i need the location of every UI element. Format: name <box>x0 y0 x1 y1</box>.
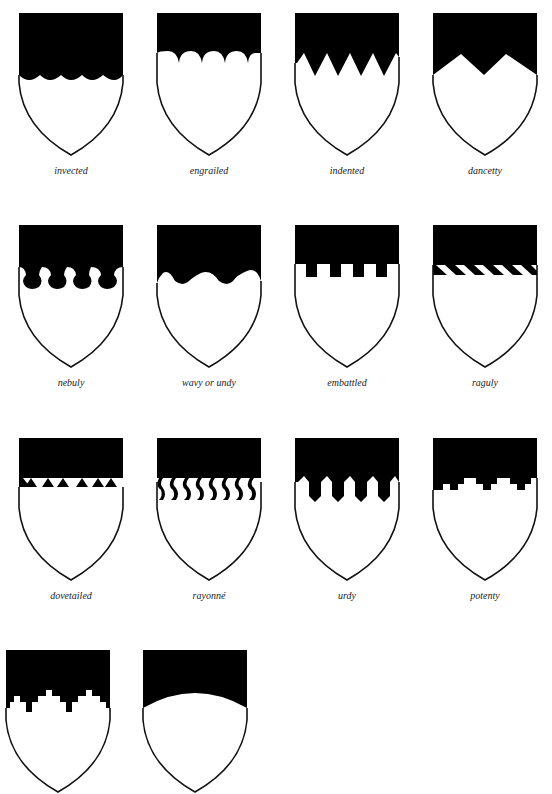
dovetailed-shield-icon <box>19 438 123 582</box>
shield-dancetty: dancetty <box>433 13 537 157</box>
arched-shield-icon <box>143 650 247 794</box>
engrailed-shield-icon <box>157 13 261 157</box>
potenty-shield-icon <box>433 438 537 582</box>
shield-embattled: embattled <box>295 225 399 369</box>
shield-indented: indented <box>295 13 399 157</box>
shield-label: indented <box>275 165 419 176</box>
raguly-shield-icon <box>433 225 537 369</box>
dancetty-shield-icon <box>433 13 537 157</box>
shield-label: embattled <box>275 377 419 388</box>
shield-label: urdy <box>275 590 419 601</box>
shield-label: rayonné <box>137 590 281 601</box>
shield-label: dancetty <box>413 165 552 176</box>
shield-potenty: potenty <box>433 438 537 582</box>
shield-urdy: urdy <box>295 438 399 582</box>
nebuly-shield-icon <box>19 225 123 369</box>
invected-shield-icon <box>19 13 123 157</box>
shield-label: potenty <box>413 590 552 601</box>
shield-engrailed: engrailed <box>157 13 261 157</box>
shield-rayonne: rayonné <box>157 438 261 582</box>
shield-arched <box>143 650 247 794</box>
embattled-grady-shield-icon <box>6 650 110 794</box>
shield-label: invected <box>0 165 143 176</box>
shield-embattled-grady <box>6 650 110 794</box>
shield-wavy: wavy or undy <box>157 225 261 369</box>
embattled-shield-icon <box>295 225 399 369</box>
shield-dovetailed: dovetailed <box>19 438 123 582</box>
shield-label: wavy or undy <box>137 377 281 388</box>
indented-shield-icon <box>295 13 399 157</box>
shield-invected: invected <box>19 13 123 157</box>
shield-raguly: raguly <box>433 225 537 369</box>
shield-nebuly: nebuly <box>19 225 123 369</box>
shield-label: raguly <box>413 377 552 388</box>
shield-label: engrailed <box>137 165 281 176</box>
shield-label: dovetailed <box>0 590 143 601</box>
urdy-shield-icon <box>295 438 399 582</box>
wavy-shield-icon <box>157 225 261 369</box>
shield-label: nebuly <box>0 377 143 388</box>
rayonne-shield-icon <box>157 438 261 582</box>
